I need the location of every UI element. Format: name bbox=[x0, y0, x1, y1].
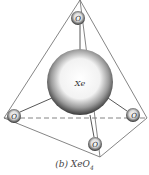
svg-text:O: O bbox=[131, 112, 137, 120]
svg-text:O: O bbox=[75, 15, 81, 23]
caption-subscript: 4 bbox=[90, 164, 94, 171]
caption-formula: XeO bbox=[71, 159, 90, 169]
o-atom-right: O bbox=[126, 108, 140, 122]
svg-text:O: O bbox=[92, 141, 98, 149]
xeo4-diagram: Xe O O O O bbox=[0, 0, 149, 175]
o-atom-bottom: O bbox=[88, 137, 102, 151]
xe-label: Xe bbox=[74, 79, 86, 88]
xe-atom: Xe bbox=[47, 49, 113, 115]
o-atom-left: O bbox=[7, 109, 21, 123]
svg-text:O: O bbox=[11, 113, 17, 121]
caption-prefix: (b) bbox=[55, 159, 71, 169]
o-atom-top: O bbox=[71, 11, 85, 25]
figure-caption: (b) XeO4 bbox=[0, 159, 149, 171]
